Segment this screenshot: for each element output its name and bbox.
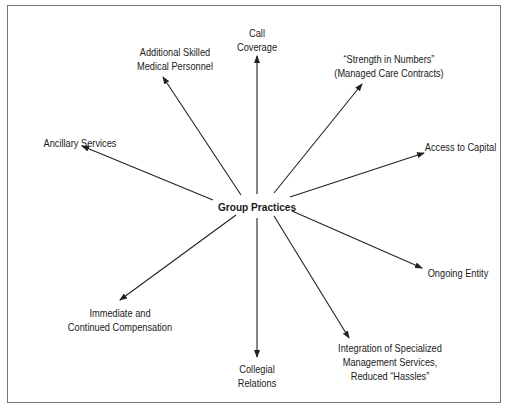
node-line: Relations (231, 376, 284, 390)
node-access-to-capital: Access to Capital (425, 140, 495, 154)
node-line: Integration of Specialized (328, 341, 451, 355)
node-ancillary-services: Ancillary Services (36, 136, 124, 150)
node-line: Reduced “Hassles” (328, 369, 451, 383)
node-collegial-relations: Collegial Relations (231, 362, 284, 390)
arrow-additional-personnel (163, 77, 241, 195)
arrow-ancillary-services (82, 146, 213, 200)
node-line: Access to Capital (425, 140, 495, 154)
node-call-coverage: Call Coverage (226, 26, 288, 54)
node-line: “Strength in Numbers” (323, 52, 455, 66)
node-line: (Managed Care Contracts) (323, 66, 455, 80)
arrow-access-to-capital (290, 153, 424, 197)
arrow-immediate-compensation (120, 215, 236, 300)
node-line: Continued Compensation (67, 320, 173, 334)
node-line: Medical Personnel (118, 59, 232, 73)
node-line: Collegial (231, 362, 284, 376)
node-line: Ancillary Services (36, 136, 124, 150)
arrow-ongoing-entity (292, 211, 422, 268)
center-node-label: Group Practices (213, 200, 301, 214)
node-immediate-compensation: Immediate and Continued Compensation (67, 306, 173, 334)
arrow-integration (274, 216, 349, 338)
node-line: Additional Skilled (118, 45, 232, 59)
node-integration-management-services: Integration of Specialized Management Se… (328, 341, 451, 383)
node-line: Immediate and (67, 306, 173, 320)
node-line: Ongoing Entity (426, 266, 489, 280)
node-line: Coverage (226, 40, 288, 54)
node-ongoing-entity: Ongoing Entity (426, 266, 489, 280)
node-line: Management Services, (328, 355, 451, 369)
arrow-strength-in-numbers (274, 84, 362, 193)
node-additional-personnel: Additional Skilled Medical Personnel (118, 45, 232, 73)
node-line: Call (226, 26, 288, 40)
node-strength-in-numbers: “Strength in Numbers” (Managed Care Cont… (323, 52, 455, 80)
